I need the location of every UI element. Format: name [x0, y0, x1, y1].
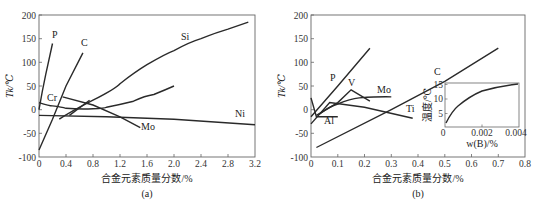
x-tick-label: 2.4	[195, 159, 207, 169]
y-tick-label: 200	[22, 11, 37, 21]
inset-y-axis-label: 温度/℃	[421, 88, 433, 122]
y-tick-label: 100	[22, 58, 37, 68]
x-tick-label: 2.0	[168, 159, 180, 169]
label-p: P	[330, 72, 336, 83]
chart-b-y-axis-label: Tk/℃	[276, 74, 287, 98]
inset-x-tick-label: 0.004	[505, 128, 527, 138]
x-tick-label: 0.3	[385, 159, 397, 169]
inset-plot-frame	[445, 83, 519, 127]
y-tick-label: 100	[294, 58, 309, 68]
y-tick-label: 150	[294, 34, 309, 44]
label-mo: Mo	[377, 84, 391, 95]
chart-b-y-tick-labels: 200 150 100 50 0 -50 -100	[291, 11, 309, 163]
x-tick-label: 0.8	[87, 159, 99, 169]
y-tick-label: 50	[27, 82, 37, 92]
figure: 200 150 100 50 0 -50 -100 0 0.4 0.8 1.2 …	[0, 0, 537, 204]
curve-unlabeled	[69, 100, 89, 115]
chart-a-x-axis-label: 合金元素质量分数/%	[101, 172, 192, 184]
x-tick-label: 0	[37, 159, 42, 169]
x-tick-label: 0.4	[412, 159, 424, 169]
label-mo: Mo	[141, 121, 155, 132]
inset-y-tick-label: 5	[438, 109, 443, 119]
curve-c	[39, 53, 83, 150]
y-tick-label: 0	[303, 105, 308, 115]
label-si: Si	[181, 31, 190, 42]
label-ti: Ti	[406, 103, 415, 114]
chart-b-x-axis-label: 合金元素质量分数/%	[372, 172, 463, 184]
inset-y-tick-label: 10	[434, 94, 444, 104]
x-tick-label: 2.8	[222, 159, 234, 169]
chart-a-plot-frame	[39, 15, 255, 157]
label-al: Al	[324, 115, 334, 126]
y-tick-label: -50	[295, 129, 308, 139]
x-tick-label: 0.4	[60, 159, 72, 169]
label-c: C	[434, 66, 441, 77]
x-tick-label: 0.1	[332, 159, 344, 169]
x-tick-label: 0.5	[439, 159, 451, 169]
label-ni: Ni	[235, 108, 245, 119]
x-tick-label: 3.2	[249, 159, 261, 169]
y-tick-label: 150	[22, 34, 37, 44]
y-tick-label: 50	[299, 82, 309, 92]
x-tick-label: 0	[309, 159, 314, 169]
label-cr: Cr	[47, 92, 58, 103]
y-tick-label: -100	[291, 153, 309, 163]
x-tick-label: 1.2	[114, 159, 126, 169]
x-tick-label: 0.6	[466, 159, 478, 169]
inset-x-axis-label: w(B)/%	[466, 138, 498, 150]
chart-a-y-tick-labels: 200 150 100 50 0 -50 -100	[19, 11, 37, 163]
x-tick-label: 1.6	[141, 159, 153, 169]
inset-x-tick-label: 0	[441, 128, 446, 138]
label-p: P	[52, 29, 58, 40]
chart-a-x-tick-labels: 0 0.4 0.8 1.2 1.6 2.0 2.4 2.8 3.2	[37, 159, 262, 169]
y-tick-label: 200	[294, 11, 309, 21]
y-tick-label: 0	[31, 105, 36, 115]
y-tick-label: -50	[23, 129, 36, 139]
inset-x-tick-label: 0.002	[471, 128, 493, 138]
x-tick-label: 0.7	[492, 159, 504, 169]
inset-y-tick-label: 15	[434, 80, 444, 90]
label-v: V	[348, 77, 356, 88]
chart-a-caption: (a)	[141, 188, 152, 200]
chart-b: 200 150 100 50 0 -50 -100 0 0.1 0.2 0.3 …	[276, 11, 531, 201]
curve-cr	[39, 86, 174, 109]
label-c: C	[81, 37, 88, 48]
chart-a-y-axis-label: Tk/℃	[4, 74, 15, 98]
chart-b-x-tick-labels: 0 0.1 0.2 0.3 0.4 0.5 0.6 0.7 0.8	[309, 159, 532, 169]
x-tick-label: 0.8	[519, 159, 531, 169]
y-tick-label: -100	[19, 153, 37, 163]
chart-b-inset: 15 10 5 0 0.002 0.004 w(B)/% 温度/℃	[421, 80, 527, 150]
chart-a: 200 150 100 50 0 -50 -100 0 0.4 0.8 1.2 …	[4, 11, 261, 201]
chart-b-caption: (b)	[412, 188, 424, 200]
x-tick-label: 0.2	[359, 159, 371, 169]
